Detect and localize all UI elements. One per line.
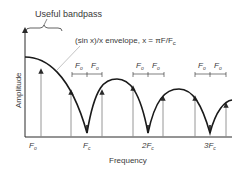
x-tick-3fc: 3Fc — [204, 141, 216, 151]
x-tick-fc: Fc — [83, 141, 91, 151]
spacing-marker-group-3: Fo Fo — [195, 61, 226, 77]
bandpass-bracket — [26, 25, 62, 31]
svg-text:Fo: Fo — [91, 61, 99, 71]
x-tick-2fc: 2Fc — [141, 141, 154, 151]
bandpass-leader-line — [44, 19, 47, 25]
sinc-spectrum-diagram: Useful bandpass (sin x)/x envelope, x = … — [0, 0, 243, 174]
x-tick-f0: Fo — [29, 141, 37, 151]
bandpass-label: Useful bandpass — [35, 9, 103, 19]
spacing-marker-group-2: Fo Fo — [133, 61, 164, 77]
svg-text:Fo: Fo — [136, 61, 144, 71]
svg-text:Fo: Fo — [214, 61, 222, 71]
envelope-label: (sin x)/x envelope, x = πF/Fc — [75, 36, 176, 46]
spacing-marker-group-1: Fo Fo — [72, 61, 102, 77]
svg-text:Fo: Fo — [75, 61, 83, 71]
svg-text:Fo: Fo — [152, 61, 160, 71]
x-axis-label: Frequency — [109, 156, 147, 165]
y-axis-label: Amplitude — [14, 72, 23, 108]
svg-text:Fo: Fo — [198, 61, 206, 71]
